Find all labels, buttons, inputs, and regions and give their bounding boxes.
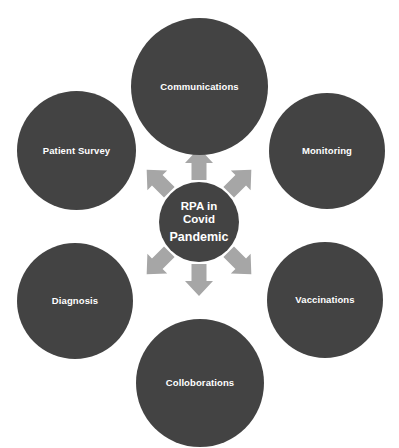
hub-label-line-3: Pandemic xyxy=(169,230,228,245)
node-monitoring: Monitoring xyxy=(269,93,385,209)
node-hub-rpa-covid-pandemic: RPA in Covid Pandemic xyxy=(159,182,239,262)
node-diagnosis-label: Diagnosis xyxy=(46,295,104,307)
node-communications: Communications xyxy=(131,18,268,155)
node-colloborations-label: Colloborations xyxy=(160,377,240,389)
hub-label-line-2: Covid xyxy=(183,213,215,227)
node-diagnosis: Diagnosis xyxy=(17,243,133,359)
node-patient-survey: Patient Survey xyxy=(17,91,136,210)
node-communications-label: Communications xyxy=(154,81,244,93)
node-colloborations: Colloborations xyxy=(136,319,264,447)
node-vaccinations: Vaccinations xyxy=(267,242,383,358)
hub-label-line-1: RPA in xyxy=(181,200,217,214)
node-monitoring-label: Monitoring xyxy=(296,145,358,157)
rpa-covid-radial-diagram: Communications Monitoring Vaccinations C… xyxy=(0,0,399,448)
node-patient-survey-label: Patient Survey xyxy=(37,145,116,157)
arrow-down-icon xyxy=(185,264,213,296)
node-vaccinations-label: Vaccinations xyxy=(289,294,360,306)
